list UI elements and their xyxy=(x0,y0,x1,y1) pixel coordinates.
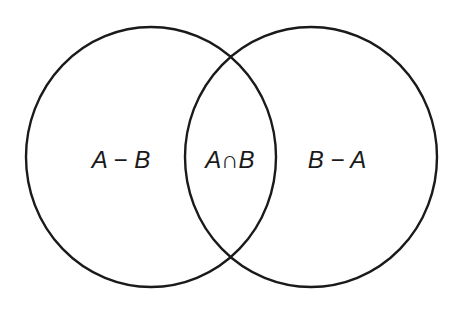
label-a-minus-b: A − B xyxy=(90,146,150,173)
venn-diagram: A − B A∩B B − A xyxy=(0,0,461,310)
label-b-minus-a: B − A xyxy=(308,146,366,173)
label-a-intersect-b: A∩B xyxy=(203,146,254,173)
